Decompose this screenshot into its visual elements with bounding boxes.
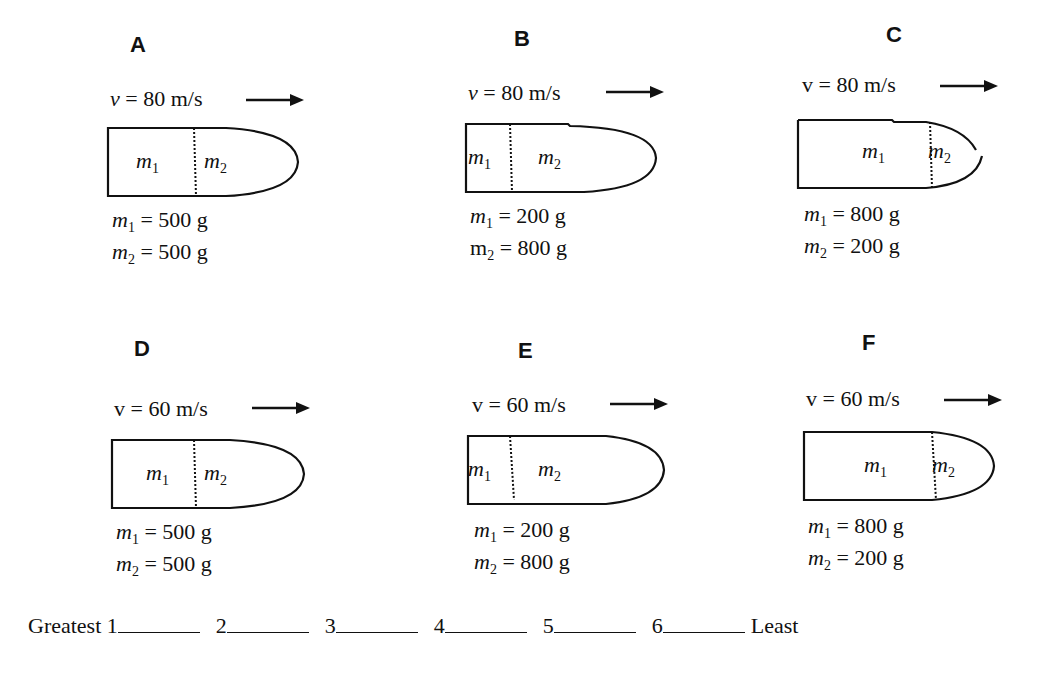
mass-values: m1 = 200 g m2 = 800 g: [470, 204, 567, 269]
m2-label: m2: [204, 460, 227, 489]
velocity-label: v = 60 m/s: [472, 392, 566, 418]
arrow-right-icon: [252, 400, 312, 416]
velocity-label: v = 80 m/s: [468, 80, 560, 106]
panel-letter: B: [514, 26, 530, 52]
velocity-label: v = 80 m/s: [802, 72, 896, 98]
bullet-shape: [802, 428, 1002, 508]
velocity-label: v = 60 m/s: [806, 386, 900, 412]
panel-b: B v = 80 m/s m1 m2 m1 = 200 g m2 = 800 g: [460, 26, 700, 286]
mass-values: m1 = 500 g m2 = 500 g: [112, 208, 208, 273]
panel-letter: E: [518, 338, 533, 364]
velocity-label: v = 60 m/s: [114, 396, 208, 422]
greatest-label: Greatest: [28, 613, 101, 638]
m2-label: m2: [538, 456, 561, 485]
bullet-shape: [796, 116, 996, 196]
mass-values: m1 = 200 g m2 = 800 g: [474, 518, 570, 583]
rank-slot-1[interactable]: 1: [107, 613, 216, 638]
arrow-right-icon: [944, 392, 1004, 408]
m2-label: m2: [932, 452, 955, 481]
m1-label: m1: [468, 144, 491, 173]
panel-c: C v = 80 m/s m1 m2 m1 = 800 g m2 = 200 g: [790, 22, 1030, 282]
mass-values: m1 = 800 g m2 = 200 g: [804, 202, 900, 267]
bullet-shape: [464, 120, 664, 200]
arrow-right-icon: [610, 396, 670, 412]
m1-label: m1: [468, 456, 491, 485]
m1-label: m1: [136, 148, 159, 177]
bullet-shape: [466, 432, 666, 512]
least-label: Least: [751, 613, 799, 638]
mass-values: m1 = 500 g m2 = 500 g: [116, 520, 212, 585]
panel-a: A v = 80 m/s m1 m2 m1 = 500 g m2 = 500 g: [100, 30, 340, 290]
arrow-right-icon: [606, 84, 666, 100]
m2-label: m2: [204, 148, 227, 177]
panel-f: F v = 60 m/s m1 m2 m1 = 800 g m2 = 200 g: [790, 330, 1030, 590]
panel-letter: C: [886, 22, 902, 48]
panel-d: D v = 60 m/s m1 m2 m1 = 500 g m2 = 500 g: [100, 336, 340, 596]
rank-slot-5[interactable]: 5: [543, 613, 652, 638]
panel-letter: A: [130, 32, 146, 58]
rank-slot-2[interactable]: 2: [216, 613, 325, 638]
arrow-right-icon: [940, 78, 1000, 94]
panel-letter: F: [862, 330, 875, 356]
rank-slot-4[interactable]: 4: [434, 613, 543, 638]
m1-label: m1: [862, 138, 885, 167]
rank-slot-3[interactable]: 3: [325, 613, 434, 638]
m1-label: m1: [864, 452, 887, 481]
ranking-row: Greatest 123456Least: [28, 613, 798, 639]
m1-label: m1: [146, 460, 169, 489]
velocity-label: v = 80 m/s: [110, 86, 202, 112]
panel-letter: D: [134, 336, 150, 362]
mass-values: m1 = 800 g m2 = 200 g: [808, 514, 904, 579]
m2-label: m2: [928, 138, 951, 167]
rank-slot-6[interactable]: 6: [652, 613, 751, 638]
panel-e: E v = 60 m/s m1 m2 m1 = 200 g m2 = 800 g: [460, 336, 700, 596]
m2-label: m2: [538, 144, 561, 173]
arrow-right-icon: [246, 92, 306, 108]
